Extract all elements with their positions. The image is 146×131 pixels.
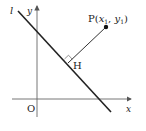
right-angle-mark <box>65 55 73 59</box>
line-l <box>18 11 111 112</box>
label-l: l <box>10 5 13 16</box>
label-x: x <box>126 104 131 114</box>
diagram-canvas: l y O x H P(x1, y1) <box>0 0 146 131</box>
label-point-p: P(x1, y1) <box>88 13 128 25</box>
label-y: y <box>26 6 33 16</box>
label-origin: O <box>27 103 35 114</box>
perpendicular-segment <box>68 27 106 63</box>
label-h: H <box>73 60 82 71</box>
point-close: ) <box>124 13 128 24</box>
point-p <box>104 25 108 29</box>
